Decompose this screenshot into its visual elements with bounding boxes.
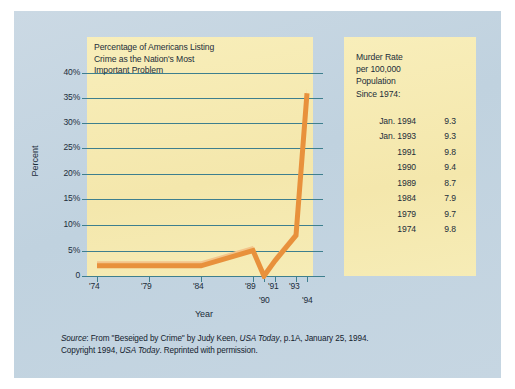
murder-rate-heading-line-3: Population <box>356 75 403 87</box>
row-label: 1989 <box>350 178 416 188</box>
row-label: 1991 <box>350 147 416 157</box>
source-line-1-d: , p.1A, January 25, 1994. <box>280 334 369 343</box>
row-value: 9.3 <box>416 131 456 141</box>
xtick-label-84: '84 <box>193 281 203 291</box>
figure-container: 40% 35% 30% 25% 20% 15% 10% 5% 0 '74 '79… <box>14 11 501 378</box>
ytick-label-10: 10% <box>50 219 80 229</box>
source-line-2-c: . Reprinted with permission. <box>159 346 257 355</box>
row-value: 7.9 <box>416 193 456 203</box>
xtick-label-91: '91 <box>268 281 278 291</box>
murder-rate-heading: Murder Rate per 100,000 Population Since… <box>356 51 403 100</box>
ytick-label-20: 20% <box>50 168 80 178</box>
line-series <box>82 37 327 279</box>
row-value: 8.7 <box>416 178 456 188</box>
row-label: Jan. 1994 <box>350 116 416 126</box>
source-word-source: Source <box>61 334 86 343</box>
murder-rate-heading-line-2: per 100,000 <box>356 63 403 75</box>
table-row: 1984 7.9 <box>350 191 470 207</box>
source-publication-2: USA Today <box>119 346 159 355</box>
source-line-1-b: : From "Beseiged by Crime" by Judy Keen, <box>86 334 239 343</box>
ytick-label-25: 25% <box>50 142 80 152</box>
table-row: Jan. 1993 9.3 <box>350 129 470 145</box>
row-label: 1984 <box>350 193 416 203</box>
murder-rate-rows: Jan. 1994 9.3 Jan. 1993 9.3 1991 9.8 199… <box>350 113 470 237</box>
xtick-label-89: '89 <box>245 281 255 291</box>
ytick-label-30: 30% <box>50 117 80 127</box>
ytick-label-40: 40% <box>50 67 80 77</box>
xtick-label-74: '74 <box>89 281 99 291</box>
table-row: 1989 8.7 <box>350 175 470 191</box>
xtick-label-93: '93 <box>289 281 299 291</box>
row-value: 9.4 <box>416 162 456 172</box>
murder-rate-heading-line-4: Since 1974: <box>356 88 403 100</box>
ytick-label-0: 0 <box>50 270 80 280</box>
row-label: 1990 <box>350 162 416 172</box>
xtick-label-90: '90 <box>259 295 269 305</box>
xtick-label-94: '94 <box>302 295 312 305</box>
row-label: 1974 <box>350 224 416 234</box>
row-value: 9.8 <box>416 147 456 157</box>
source-publication-1: USA Today <box>240 334 280 343</box>
table-row: 1991 9.8 <box>350 144 470 160</box>
source-line-2: Copyright 1994, USA Today. Reprinted wit… <box>61 345 481 357</box>
row-value: 9.3 <box>416 116 456 126</box>
row-label: Jan. 1993 <box>350 131 416 141</box>
row-value: 9.8 <box>416 224 456 234</box>
ytick-label-15: 15% <box>50 193 80 203</box>
ytick-label-5: 5% <box>50 245 80 255</box>
source-line-2-a: Copyright 1994, <box>61 346 119 355</box>
x-axis-title: Year <box>144 309 264 319</box>
source-line-1: Source: From "Beseiged by Crime" by Judy… <box>61 333 481 345</box>
table-row: Jan. 1994 9.3 <box>350 113 470 129</box>
xtick-label-79: '79 <box>141 281 151 291</box>
row-value: 9.7 <box>416 209 456 219</box>
series-line <box>97 93 307 276</box>
series-band <box>97 89 307 275</box>
table-row: 1979 9.7 <box>350 206 470 222</box>
table-row: 1990 9.4 <box>350 160 470 176</box>
murder-rate-panel: Murder Rate per 100,000 Population Since… <box>344 37 476 276</box>
y-axis-title: Percent <box>30 131 40 191</box>
y-tick-labels: 40% 35% 30% 25% 20% 15% 10% 5% 0 <box>44 11 80 311</box>
table-row: 1974 9.8 <box>350 222 470 238</box>
row-label: 1979 <box>350 209 416 219</box>
source-caption: Source: From "Beseiged by Crime" by Judy… <box>61 333 481 356</box>
murder-rate-heading-line-1: Murder Rate <box>356 51 403 63</box>
ytick-label-35: 35% <box>50 92 80 102</box>
